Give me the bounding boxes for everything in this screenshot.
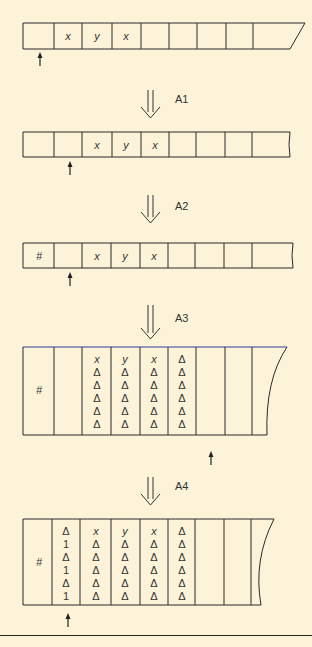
cell-symbol: #	[36, 384, 43, 396]
cell-symbol: x	[92, 525, 99, 537]
cell-symbol: #	[36, 250, 43, 262]
blank-symbol: Δ	[178, 590, 186, 602]
transition-label-a1: A1	[175, 93, 188, 105]
blank-symbol: Δ	[178, 564, 186, 576]
blank-symbol: Δ	[92, 577, 100, 589]
blank-symbol: Δ	[92, 551, 100, 563]
tape-1-symbols: x y x	[93, 139, 158, 151]
transition-label-a2: A2	[175, 200, 188, 212]
blank-symbol: Δ	[150, 538, 158, 550]
blank-symbol: Δ	[150, 564, 158, 576]
cell-symbol: y	[121, 250, 129, 262]
transition-label-a4: A4	[175, 480, 188, 492]
blank-symbol: Δ	[121, 551, 129, 563]
blank-symbol: Δ	[150, 577, 158, 589]
tape-2	[23, 243, 293, 268]
blank-symbol: Δ	[121, 379, 129, 391]
blank-symbol: Δ	[92, 564, 100, 576]
blank-symbol: Δ	[92, 538, 100, 550]
cell-symbol: x	[93, 250, 100, 262]
double-arrow-down-icon	[141, 305, 160, 339]
blank-symbol: Δ	[150, 392, 158, 404]
double-arrow-down-icon	[141, 477, 160, 505]
marker-symbol: 1	[63, 564, 69, 576]
blank-symbol: Δ	[121, 577, 129, 589]
blank-symbol: Δ	[93, 405, 101, 417]
cell-symbol: x	[151, 139, 158, 151]
blank-symbol: Δ	[150, 405, 158, 417]
blank-symbol: Δ	[121, 564, 129, 576]
blank-symbol: Δ	[93, 392, 101, 404]
blank-symbol: Δ	[150, 366, 158, 378]
blank-symbol: Δ	[178, 366, 186, 378]
cell-symbol: y	[121, 353, 129, 365]
blank-symbol: Δ	[178, 418, 186, 430]
double-arrow-down-icon	[141, 195, 160, 223]
blank-symbol: Δ	[178, 538, 186, 550]
blank-symbol: Δ	[62, 525, 70, 537]
tape-0-symbols: x y x	[64, 30, 129, 42]
head-pointer-icon	[68, 272, 73, 286]
blank-symbol: Δ	[93, 418, 101, 430]
cell-symbol: x	[150, 353, 157, 365]
blank-symbol: Δ	[178, 577, 186, 589]
blank-symbol: Δ	[92, 590, 100, 602]
marker-symbol: 1	[63, 590, 69, 602]
blank-symbol: Δ	[150, 551, 158, 563]
blank-symbol: Δ	[150, 418, 158, 430]
blank-symbol: Δ	[62, 577, 70, 589]
blank-symbol: Δ	[62, 551, 70, 563]
cell-symbol: #	[36, 556, 43, 568]
blank-symbol: Δ	[121, 366, 129, 378]
blank-symbol: Δ	[178, 551, 186, 563]
head-pointer-icon	[68, 161, 73, 175]
blank-symbol: Δ	[178, 525, 186, 537]
blank-symbol: Δ	[150, 590, 158, 602]
head-pointer-icon	[209, 451, 214, 465]
blank-symbol: Δ	[93, 366, 101, 378]
cell-symbol: y	[121, 525, 129, 537]
blank-symbol: Δ	[178, 379, 186, 391]
cell-symbol: x	[93, 139, 100, 151]
head-pointer-icon	[66, 613, 71, 627]
marker-symbol: 1	[63, 538, 69, 550]
tape-4	[23, 519, 274, 605]
blank-symbol: Δ	[121, 405, 129, 417]
turing-tape-diagram: x y x A1 x y x A2	[0, 0, 312, 647]
blank-symbol: Δ	[121, 392, 129, 404]
blank-symbol: Δ	[121, 538, 129, 550]
blank-symbol: Δ	[178, 392, 186, 404]
double-arrow-down-icon	[141, 90, 160, 118]
cell-symbol: x	[64, 30, 71, 42]
blank-symbol: Δ	[121, 590, 129, 602]
cell-symbol: y	[93, 30, 101, 42]
blank-symbol: Δ	[178, 353, 186, 365]
transition-label-a3: A3	[175, 312, 188, 324]
cell-symbol: x	[122, 30, 129, 42]
blank-symbol: Δ	[93, 379, 101, 391]
head-pointer-icon	[38, 52, 43, 66]
cell-symbol: x	[93, 353, 100, 365]
cell-symbol: x	[150, 250, 157, 262]
cell-symbol: x	[150, 525, 157, 537]
blank-symbol: Δ	[178, 405, 186, 417]
blank-symbol: Δ	[121, 418, 129, 430]
blank-symbol: Δ	[150, 379, 158, 391]
cell-symbol: y	[122, 139, 130, 151]
